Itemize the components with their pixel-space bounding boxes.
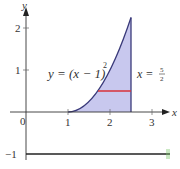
- shaded-region: [68, 18, 131, 113]
- x-axis-label: x: [171, 106, 177, 118]
- x-axis-arrow-icon: [162, 109, 170, 115]
- y-tick-label: 2: [15, 22, 21, 34]
- curve-equation-exponent: 2: [103, 61, 107, 70]
- y-tick-label: 1: [15, 64, 21, 76]
- x-tick-label: 2: [107, 116, 113, 128]
- x-tick-label: 1: [65, 116, 71, 128]
- fraction-denominator: 2: [160, 75, 164, 83]
- boundary-equation-label: x =: [136, 67, 153, 81]
- x-tick-label: 3: [149, 116, 155, 128]
- origin-label: 0: [20, 115, 26, 127]
- fraction-numerator: 5: [160, 66, 164, 74]
- curve-equation-label: y = (x − 1): [46, 66, 105, 81]
- y-neg-tick-label: −1: [5, 148, 17, 160]
- solid-of-revolution-figure: 0 1 2 3 x 1 2 −1 y y = (x − 1) 2 x = 5 2: [0, 0, 180, 169]
- y-axis-label: y: [21, 0, 27, 11]
